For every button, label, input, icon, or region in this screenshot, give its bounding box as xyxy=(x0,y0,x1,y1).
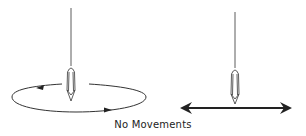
diagram-caption: No Movements xyxy=(0,119,306,130)
elliptical-path-icon xyxy=(12,84,146,113)
diagram-graphics xyxy=(0,0,306,136)
right-pendulum xyxy=(231,12,239,104)
left-pendulum xyxy=(67,8,75,101)
pendulum-diagram: No Movements xyxy=(0,0,306,136)
double-arrow-icon xyxy=(180,102,292,114)
